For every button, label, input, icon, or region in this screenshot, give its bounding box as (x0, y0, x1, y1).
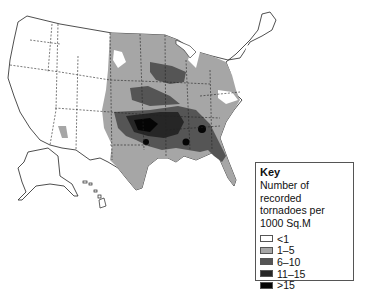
key-title: Key (260, 166, 349, 179)
key-item-label: >15 (277, 279, 295, 291)
key-item: 6–10 (260, 256, 349, 268)
key-description: Number of recorded tornadoes per 1000 Sq… (260, 179, 349, 229)
zone-lt1-new-england (244, 42, 262, 70)
key-item: <1 (260, 233, 349, 245)
alaska-outline (18, 148, 78, 200)
key-item: 11–15 (260, 268, 349, 280)
key-item-label: <1 (277, 233, 289, 245)
key-item: >15 (260, 279, 349, 291)
swatch (260, 282, 273, 289)
key-item-label: 11–15 (277, 268, 305, 280)
swatch (260, 270, 273, 277)
zone-gt15-spot (198, 125, 206, 133)
swatch (260, 235, 273, 242)
hawaii-outline (83, 181, 106, 208)
zone-gt15-spot (183, 139, 190, 146)
key-item-label: 1–5 (277, 244, 295, 256)
key-list: <1 1–5 6–10 11–15 >15 (260, 233, 349, 291)
swatch (260, 258, 273, 265)
swatch (260, 247, 273, 254)
key-item: 1–5 (260, 245, 349, 257)
map-key: Key Number of recorded tornadoes per 100… (255, 162, 354, 281)
key-item-label: 6–10 (277, 256, 300, 268)
